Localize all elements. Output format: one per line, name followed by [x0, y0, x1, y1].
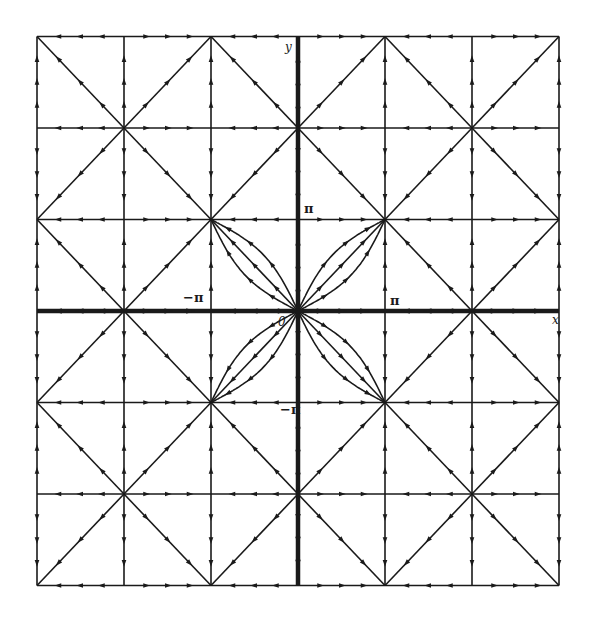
arrow-icon [424, 126, 431, 131]
arrow-icon [268, 322, 275, 328]
arrow-icon [321, 294, 328, 300]
arrow-icon [383, 238, 388, 245]
arrow-icon [35, 194, 40, 201]
arrow-icon [35, 78, 40, 85]
arrow-icon [122, 78, 127, 85]
arrow-icon [165, 583, 172, 588]
arrow-icon [470, 514, 475, 521]
arrow-icon [35, 238, 40, 245]
arrow-icon [55, 34, 62, 39]
arrow-icon [339, 400, 346, 405]
arrow-icon [229, 217, 236, 222]
arrow-icon [143, 34, 150, 39]
arrow-icon [209, 55, 214, 62]
arrow-icon [383, 444, 388, 451]
arrow-icon [187, 217, 194, 222]
arrow-icon [383, 194, 388, 201]
arrow-icon [35, 421, 40, 428]
arrow-icon [35, 284, 40, 291]
arrow-icon [209, 171, 214, 178]
arrow-icon [35, 560, 40, 567]
arrow-icon [470, 194, 475, 201]
arrow-icon [35, 55, 40, 62]
arrow-icon [470, 238, 475, 245]
arrow-icon [535, 492, 542, 497]
tick-label-pi-y: π [304, 201, 314, 216]
arrow-icon [35, 377, 40, 384]
arrow-icon [98, 400, 105, 405]
arrow-icon [557, 560, 562, 567]
arrow-icon [557, 148, 562, 155]
arrow-icon [317, 583, 324, 588]
arrow-icon [364, 366, 369, 373]
arrow-icon [122, 467, 127, 474]
arrow-icon [424, 400, 431, 405]
arrow-icon [317, 400, 324, 405]
arrow-icon [250, 400, 257, 405]
arrow-icon [268, 294, 275, 300]
arrow-icon [209, 560, 214, 567]
arrow-icon [513, 492, 520, 497]
arrow-icon [491, 492, 498, 497]
arrow-icon [209, 284, 214, 291]
arrow-icon [446, 492, 453, 497]
arrow-icon [361, 34, 368, 39]
arrow-icon [187, 492, 194, 497]
arrow-icon [383, 514, 388, 521]
arrow-icon [55, 400, 62, 405]
arrow-icon [470, 377, 475, 384]
arrow-icon [470, 148, 475, 155]
arrow-icon [470, 467, 475, 474]
arrow-icon [55, 217, 62, 222]
arrow-icon [557, 354, 562, 361]
arrow-icon [424, 492, 431, 497]
arrow-icon [491, 34, 498, 39]
arrow-icon [446, 126, 453, 131]
arrow-icon [491, 126, 498, 131]
arrow-icon [272, 126, 279, 131]
arrow-icon [98, 126, 105, 131]
arrow-icon [250, 583, 257, 588]
arrow-icon [272, 217, 279, 222]
arrow-icon [209, 148, 214, 155]
arrow-icon [361, 583, 368, 588]
arrow-icon [76, 400, 83, 405]
arrow-icon [55, 583, 62, 588]
arrow-icon [383, 284, 388, 291]
arrow-icon [383, 101, 388, 108]
arrow-icon [229, 583, 236, 588]
arrow-icon [122, 55, 127, 62]
arrow-icon [470, 354, 475, 361]
arrow-icon [513, 400, 520, 405]
arrow-icon [513, 583, 520, 588]
arrow-icon [446, 400, 453, 405]
arrow-icon [513, 34, 520, 39]
arrow-icon [470, 101, 475, 108]
arrow-icon [557, 467, 562, 474]
arrow-icon [535, 126, 542, 131]
arrow-icon [187, 126, 194, 131]
origin-label: 0 [278, 315, 286, 329]
arrow-icon [339, 583, 346, 588]
arrow-icon [361, 400, 368, 405]
arrow-icon [209, 101, 214, 108]
arrow-icon [98, 217, 105, 222]
arrow-icon [446, 583, 453, 588]
arrow-icon [35, 354, 40, 361]
arrow-icon [383, 78, 388, 85]
tick-label-neg-pi-y: −π [280, 402, 301, 417]
arrow-icon [122, 261, 127, 268]
arrow-icon [491, 583, 498, 588]
arrow-icon [209, 261, 214, 268]
arrow-icon [35, 261, 40, 268]
arrow-icon [361, 126, 368, 131]
arrow-icon [229, 492, 236, 497]
arrow-icon [76, 583, 83, 588]
arrow-icon [403, 126, 410, 131]
arrow-icon [364, 249, 369, 256]
arrow-icon [35, 148, 40, 155]
arrow-icon [470, 261, 475, 268]
arrow-icon [470, 331, 475, 338]
arrow-icon [250, 34, 257, 39]
arrow-icon [403, 34, 410, 39]
